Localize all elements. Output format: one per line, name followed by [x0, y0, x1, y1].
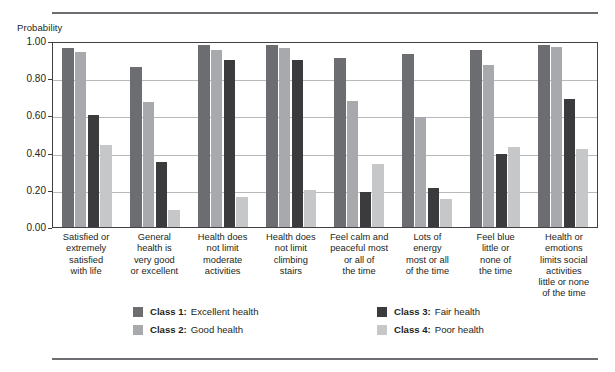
category-label: Feel calm andpeaceful mostor all ofthe t… [325, 232, 393, 300]
bar [496, 154, 508, 227]
bar [440, 199, 452, 227]
x-axis-categories: Satisfied orextremelysatisfiedwith lifeG… [52, 232, 598, 300]
bar-group [461, 43, 529, 227]
category-label: Satisfied orextremelysatisfiedwith life [52, 232, 120, 300]
bar-group [53, 43, 121, 227]
legend-description: Poor health [435, 324, 484, 335]
bar [564, 99, 576, 227]
bar [236, 197, 248, 227]
plot-area [52, 42, 598, 228]
bar [198, 45, 210, 227]
bar [224, 60, 236, 227]
bar [279, 48, 291, 227]
y-tick-mark [48, 228, 52, 229]
legend-swatch-icon [133, 307, 143, 317]
y-tick-label: 0.00 [0, 223, 46, 233]
bar [168, 210, 180, 227]
legend-swatch-icon [377, 307, 387, 317]
bar [415, 117, 427, 227]
y-tick-label: 0.40 [0, 149, 46, 159]
bar [470, 50, 482, 227]
legend-item: Class 3:Fair health [377, 306, 553, 317]
category-label: Health oremotionslimits socialactivities… [530, 232, 598, 300]
bar [211, 50, 223, 227]
category-label: Health doesnot limitmoderateactivities [189, 232, 257, 300]
y-tick-label: 0.20 [0, 186, 46, 196]
top-rule [52, 12, 598, 14]
bottom-rule [52, 358, 598, 360]
legend-item: Class 4:Poor health [377, 324, 553, 335]
bar-group [325, 43, 393, 227]
bar [130, 67, 142, 227]
bar-group [189, 43, 257, 227]
figure: Probability 0.000.200.400.600.801.00 Sat… [0, 0, 615, 372]
y-tick-label: 0.80 [0, 74, 46, 84]
bar [483, 65, 495, 227]
legend: Class 1:Excellent healthClass 3:Fair hea… [133, 306, 553, 342]
bar-group [393, 43, 461, 227]
category-label: Lots ofenergymost or allof the time [393, 232, 461, 300]
legend-key: Class 1: [150, 306, 187, 317]
bar [538, 45, 550, 227]
bar-groups [53, 43, 597, 227]
y-tick-label: 0.60 [0, 111, 46, 121]
bar [402, 54, 414, 227]
bar [75, 52, 87, 227]
legend-description: Fair health [435, 306, 480, 317]
category-label: Health doesnot limitclimbingstairs [257, 232, 325, 300]
legend-description: Good health [191, 324, 243, 335]
bar-group [257, 43, 325, 227]
bar [551, 47, 563, 227]
y-axis-title: Probability [17, 22, 62, 33]
bar [100, 145, 112, 227]
legend-key: Class 3: [394, 306, 431, 317]
category-label: Feel bluelittle ornone ofthe time [462, 232, 530, 300]
bar [292, 60, 304, 227]
bar [88, 115, 100, 227]
bar [266, 45, 278, 227]
y-tick-label: 1.00 [0, 37, 46, 47]
legend-key: Class 2: [150, 324, 187, 335]
legend-description: Excellent health [191, 306, 259, 317]
legend-key: Class 4: [394, 324, 431, 335]
category-label: Generalhealth isvery goodor excellent [120, 232, 188, 300]
bar [372, 164, 384, 227]
bar [428, 188, 440, 227]
bar [143, 102, 155, 227]
bar [576, 149, 588, 227]
bar [334, 58, 346, 227]
bar [360, 192, 372, 227]
legend-item: Class 1:Excellent health [133, 306, 377, 317]
legend-swatch-icon [133, 325, 143, 335]
bar [62, 48, 74, 227]
bar-group [529, 43, 597, 227]
bar-group [121, 43, 189, 227]
bar [508, 147, 520, 227]
legend-swatch-icon [377, 325, 387, 335]
bar [347, 101, 359, 227]
legend-item: Class 2:Good health [133, 324, 377, 335]
bar [156, 162, 168, 227]
bar [304, 190, 316, 227]
